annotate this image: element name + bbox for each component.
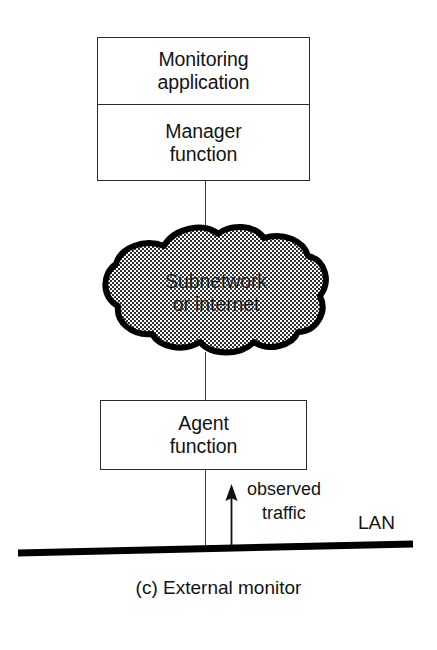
manager-function-label: Manager function: [165, 120, 241, 166]
observed-traffic-label-line2: traffic: [262, 503, 306, 525]
manager-station-box: Monitoring application Manager function: [97, 37, 310, 181]
monitoring-application-label: Monitoring application: [157, 48, 249, 94]
connector-cloud-to-agent: [205, 352, 207, 401]
agent-function-label: Agent function: [170, 412, 238, 458]
lan-bus-bar: [0, 525, 437, 570]
agent-function-line2: function: [170, 435, 238, 457]
agent-function-line1: Agent: [178, 412, 228, 434]
manager-function-line1: Manager: [165, 120, 241, 142]
manager-function-line2: function: [170, 143, 238, 165]
agent-function-box: Agent function: [100, 400, 307, 470]
monitoring-application-cell: Monitoring application: [98, 38, 309, 105]
network-cloud-shape: Subnetwork or internet: [100, 222, 332, 364]
monitoring-application-line2: application: [157, 71, 249, 93]
figure-caption: (c) External monitor: [0, 577, 437, 599]
manager-function-cell: Manager function: [98, 105, 309, 180]
external-monitor-diagram: Monitoring application Manager function: [0, 0, 437, 650]
observed-traffic-label-line1: observed: [247, 479, 321, 501]
monitoring-application-line1: Monitoring: [158, 48, 248, 70]
